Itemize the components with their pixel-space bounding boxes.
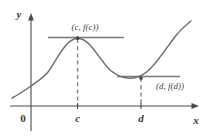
x-axis-label: x: [192, 114, 199, 126]
x-tick-label-d: d: [138, 112, 144, 124]
y-axis-label: y: [15, 8, 22, 20]
x-tick-label-c: c: [75, 112, 80, 124]
function-graph-figure: y x 0 c d (c, f(c)) (d, f(d)): [0, 0, 211, 137]
point-marker-c: [76, 36, 80, 40]
annotation-local-maximum: (c, f(c)): [72, 22, 99, 32]
origin-label: 0: [20, 112, 26, 124]
annotation-local-minimum: (d, f(d)): [156, 81, 184, 91]
graph-canvas: y x 0 c d (c, f(c)) (d, f(d)): [0, 0, 211, 137]
y-axis-arrowhead: [28, 13, 34, 21]
x-axis-arrowhead: [192, 103, 200, 109]
point-marker-d: [139, 76, 143, 80]
